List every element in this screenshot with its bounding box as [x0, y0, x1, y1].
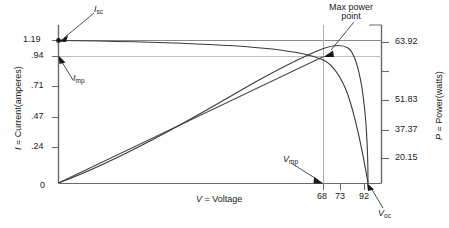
x-tick-label-92: 92: [359, 192, 369, 201]
y2-tick-label-37-37: 37.37: [395, 125, 418, 134]
y-axis-title-rest: = Current(amperes): [13, 66, 23, 147]
x-tick-label-73: 73: [335, 192, 345, 201]
iv-curve-figure: 1.19 .94 .71 .47 .24 0 63.92 51.83 37.37…: [0, 0, 449, 228]
voc-subscript: oc: [384, 212, 391, 219]
y-axis-title: I = Current(amperes): [14, 66, 23, 150]
vmp-label: Vmp: [283, 155, 298, 164]
max-power-point-label: Max power point: [322, 3, 380, 22]
max-power-point-annotation-arrow: [324, 22, 355, 57]
imp-subscript: mp: [76, 77, 85, 84]
x-tick-label-68: 68: [317, 192, 327, 201]
left-axis-ticks: [52, 41, 59, 148]
y-tick-label-0-47: .47: [31, 112, 44, 121]
vmp-annotation-arrow: [291, 163, 324, 184]
imp-label: Imp: [73, 74, 85, 83]
y2-axis-title-rest: = Power(watts): [434, 71, 444, 134]
y-tick-label-0-71: .71: [31, 81, 44, 90]
y2-axis-title: P = Power(watts): [435, 71, 444, 140]
bottom-axis-ticks: [324, 184, 365, 191]
vmp-subscript: mp: [289, 158, 298, 165]
y-tick-label-0: 0: [40, 181, 45, 190]
y-axis-title-symbol: I: [13, 147, 23, 150]
y2-tick-label-51-83: 51.83: [395, 95, 418, 104]
voc-annotation-arrow: [367, 183, 383, 208]
power-curve: [59, 45, 369, 183]
y-tick-label-1-19: 1.19: [23, 35, 41, 44]
voc-label: Voc: [378, 209, 391, 218]
y-tick-label-0-94: .94: [31, 51, 44, 60]
isc-annotation-arrow: [59, 13, 95, 42]
x-axis-title: V = Voltage: [196, 195, 242, 204]
y-tick-label-0-24: .24: [31, 142, 44, 151]
imp-annotation-arrow: [59, 56, 74, 81]
right-axis-ticks: [382, 43, 390, 159]
max-power-point-line2: point: [341, 11, 361, 21]
isc-label: Isc: [94, 5, 103, 14]
y2-tick-label-63-92: 63.92: [395, 37, 418, 46]
x-axis-title-rest: = Voltage: [202, 194, 242, 204]
y2-tick-label-20-15: 20.15: [395, 153, 418, 162]
y2-axis-title-symbol: P: [434, 134, 444, 140]
iv-curve: [59, 41, 369, 184]
isc-subscript: sc: [97, 8, 104, 15]
